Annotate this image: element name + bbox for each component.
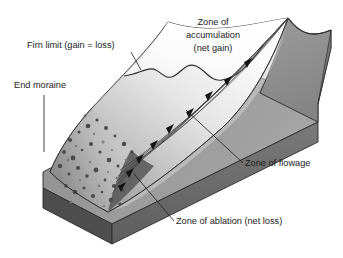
label-zone-accumulation: Zone of accumulation (net gain): [186, 17, 240, 53]
glacier-zones-diagram: Firn limit (gain = loss) End moraine Zon…: [0, 0, 343, 258]
ablation-label: Zone of ablation (net loss): [176, 216, 282, 226]
firn-limit-label: Firn limit (gain = loss): [27, 40, 115, 50]
flowage-label: Zone of flowage: [245, 158, 310, 168]
label-end-moraine: End moraine: [14, 80, 66, 152]
end-moraine-label: End moraine: [14, 80, 66, 90]
label-firn-limit: Firn limit (gain = loss): [27, 40, 141, 70]
accumulation-label-line1: Zone of: [197, 17, 229, 27]
accumulation-label-line3: (net gain): [194, 43, 233, 53]
accumulation-label-line2: accumulation: [186, 30, 240, 40]
